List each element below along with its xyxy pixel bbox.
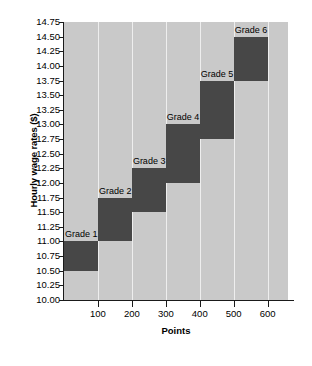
bar-grade-1	[64, 241, 98, 270]
wage-structure-chart: Hourly wage rates ($) 10.0010.2510.5010.…	[0, 0, 312, 366]
gridline	[268, 22, 269, 300]
y-axis-tick-label: 13.50	[2, 90, 60, 100]
y-axis-tick-group: 10.0010.2510.5010.7511.0011.2511.5011.75…	[0, 0, 60, 366]
bar-grade-4	[166, 124, 200, 183]
y-axis-tick-label: 13.00	[2, 119, 60, 129]
x-axis-tick-mark	[98, 301, 99, 307]
bar-label: Grade 5	[201, 70, 234, 79]
y-axis-tick-label: 11.75	[2, 193, 60, 203]
bar-label: Grade 1	[65, 230, 98, 239]
y-axis-tick-label: 10.00	[2, 295, 60, 305]
x-axis-tick-mark	[166, 301, 167, 307]
y-axis-tick-label: 14.25	[2, 46, 60, 56]
gridline	[200, 22, 201, 300]
bar-grade-6	[234, 37, 268, 81]
bar-grade-5	[200, 81, 234, 140]
bar-label: Grade 4	[167, 113, 200, 122]
y-axis-tick-label: 12.00	[2, 178, 60, 188]
y-axis-tick-label: 11.25	[2, 222, 60, 232]
y-axis-tick-label: 14.75	[2, 17, 60, 27]
y-axis-tick-label: 14.50	[2, 32, 60, 42]
y-axis-tick-label: 12.25	[2, 163, 60, 173]
x-axis-tick-mark	[268, 301, 269, 307]
bar-grade-2	[98, 198, 132, 242]
y-axis-tick-label: 11.50	[2, 207, 60, 217]
bar-label: Grade 3	[133, 157, 166, 166]
y-axis-tick-label: 13.75	[2, 76, 60, 86]
bar-label: Grade 6	[235, 26, 268, 35]
y-axis-tick-label: 13.25	[2, 105, 60, 115]
y-axis-tick-label: 12.50	[2, 149, 60, 159]
y-axis-tick-label: 10.50	[2, 266, 60, 276]
y-axis-tick-label: 10.25	[2, 280, 60, 290]
bar-label: Grade 2	[99, 187, 132, 196]
y-axis-tick-label: 14.00	[2, 61, 60, 71]
x-axis-tick-mark	[234, 301, 235, 307]
y-axis-tick-label: 11.00	[2, 236, 60, 246]
y-axis-tick-label: 12.75	[2, 134, 60, 144]
x-axis-tick-mark	[132, 301, 133, 307]
bar-grade-3	[132, 168, 166, 212]
y-axis-tick-label: 10.75	[2, 251, 60, 261]
gridline	[98, 22, 99, 300]
x-axis-tick-mark	[200, 301, 201, 307]
x-axis-title: Points	[64, 325, 288, 336]
plot-area: Grade 1Grade 2Grade 3Grade 4Grade 5Grade…	[64, 22, 288, 300]
x-axis-tick-label: 600	[248, 309, 288, 319]
